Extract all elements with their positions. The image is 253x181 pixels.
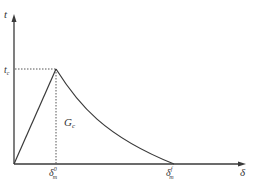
peak-traction-label: tc	[4, 64, 10, 76]
fracture-energy-label: Gc	[64, 116, 76, 130]
y-axis-arrow-icon	[12, 14, 17, 22]
x-axis-label: δ	[240, 166, 246, 178]
linear-loading-curve	[14, 69, 56, 164]
final-separation-label: δfm	[166, 166, 174, 180]
softening-curve	[56, 69, 174, 164]
peak-separation-label: δ0m	[49, 166, 58, 180]
y-axis-label: t	[4, 8, 8, 20]
traction-separation-diagram: t tc Gc δ0m δfm δ	[0, 0, 253, 181]
